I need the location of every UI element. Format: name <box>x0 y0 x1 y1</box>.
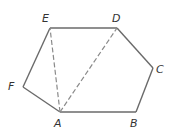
vertex-label-c: C <box>156 63 164 76</box>
dashed-diagonals <box>50 28 117 112</box>
hexagon-edges <box>23 28 153 112</box>
edge-bc <box>136 68 153 112</box>
vertex-label-b: B <box>130 117 138 130</box>
edge-fa <box>23 87 60 112</box>
edge-cd <box>117 28 153 68</box>
vertex-label-e: E <box>42 12 49 25</box>
hexagon-diagram: A B C D E F <box>0 0 174 131</box>
diagonal-ad <box>60 28 117 112</box>
vertex-label-f: F <box>8 80 15 93</box>
diagonal-ae <box>50 28 60 112</box>
edge-ef <box>23 28 50 87</box>
vertex-label-a: A <box>53 117 62 130</box>
vertex-label-d: D <box>112 12 120 25</box>
